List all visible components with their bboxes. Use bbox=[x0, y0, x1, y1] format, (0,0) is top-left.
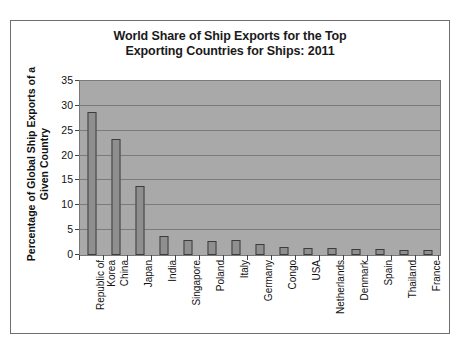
y-tick-label: 5 bbox=[51, 223, 73, 235]
bar[interactable] bbox=[328, 248, 337, 255]
bar-slot bbox=[248, 81, 272, 255]
bar[interactable] bbox=[112, 139, 121, 255]
y-tick-label: 15 bbox=[51, 173, 73, 185]
x-tick-label: China bbox=[119, 260, 130, 334]
y-axis-title-line-1: Percentage of Global Ship Exports of a bbox=[25, 64, 38, 264]
y-axis-ticks: 05101520253035 bbox=[49, 80, 73, 254]
y-tick-label: 30 bbox=[51, 99, 73, 111]
bar[interactable] bbox=[208, 241, 217, 255]
bar-slot bbox=[320, 81, 344, 255]
x-axis-labels: Republic of KoreaChinaJapanIndiaSingapor… bbox=[79, 260, 439, 334]
bar-series bbox=[80, 81, 440, 255]
chart-title-line-1: World Share of Ship Exports for the Top bbox=[11, 29, 449, 44]
x-tick-label: Thailand bbox=[407, 260, 418, 334]
bar[interactable] bbox=[160, 236, 169, 255]
chart-title-line-2: Exporting Countries for Ships: 2011 bbox=[11, 44, 449, 59]
chart-frame: World Share of Ship Exports for the Top … bbox=[10, 20, 450, 334]
bar-slot bbox=[392, 81, 416, 255]
x-tick-label: Spain bbox=[383, 260, 394, 334]
bar-slot bbox=[224, 81, 248, 255]
bar-slot bbox=[176, 81, 200, 255]
x-tick-label: Germany bbox=[263, 260, 274, 334]
x-tick-label: Republic of Korea bbox=[95, 260, 117, 334]
plot-area bbox=[79, 80, 441, 256]
bar[interactable] bbox=[304, 248, 313, 255]
x-tick-label: Congo bbox=[287, 260, 298, 334]
y-axis-title: Percentage of Global Ship Exports of a G… bbox=[25, 64, 51, 264]
bar[interactable] bbox=[256, 244, 265, 255]
bar-slot bbox=[416, 81, 440, 255]
bar-slot bbox=[152, 81, 176, 255]
bar[interactable] bbox=[184, 240, 193, 255]
x-tick-label: France bbox=[431, 260, 442, 334]
x-tick-label: Netherlands bbox=[335, 260, 346, 334]
x-tick-label: Denmark bbox=[359, 260, 370, 334]
x-tick-label: India bbox=[167, 260, 178, 334]
bar[interactable] bbox=[136, 186, 145, 255]
bar-slot bbox=[368, 81, 392, 255]
x-tick-label: USA bbox=[311, 260, 322, 334]
y-tick-label: 35 bbox=[51, 74, 73, 86]
bar-slot bbox=[272, 81, 296, 255]
x-tick-label: Poland bbox=[215, 260, 226, 334]
chart-title: World Share of Ship Exports for the Top … bbox=[11, 29, 449, 59]
bar-slot bbox=[200, 81, 224, 255]
bar-slot bbox=[104, 81, 128, 255]
y-tick-label: 25 bbox=[51, 124, 73, 136]
x-tick-label: Singapore bbox=[191, 260, 202, 334]
bar-slot bbox=[128, 81, 152, 255]
bar-slot bbox=[344, 81, 368, 255]
bar-slot bbox=[80, 81, 104, 255]
x-tick-label: Japan bbox=[143, 260, 154, 334]
y-tick-label: 20 bbox=[51, 149, 73, 161]
bar[interactable] bbox=[88, 112, 97, 255]
x-tick-label: Italy bbox=[239, 260, 250, 334]
y-tick-label: 0 bbox=[51, 248, 73, 260]
bar-slot bbox=[296, 81, 320, 255]
bar[interactable] bbox=[232, 240, 241, 255]
bar[interactable] bbox=[280, 247, 289, 255]
y-tick-label: 10 bbox=[51, 198, 73, 210]
